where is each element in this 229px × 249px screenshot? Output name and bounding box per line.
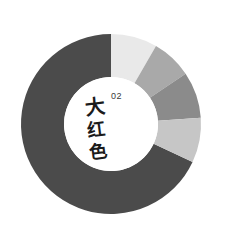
donut-chart-figure: 02 大 红 色 (0, 0, 229, 249)
donut-chart-svg (0, 0, 229, 249)
donut-center-hole (64, 77, 158, 171)
